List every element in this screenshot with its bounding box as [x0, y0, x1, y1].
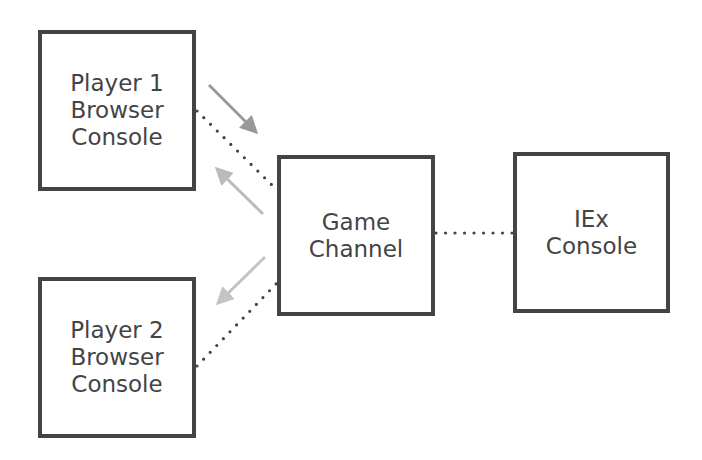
dotted-link-player2-game-channel: [197, 283, 277, 366]
player2-browser-console-node: Player 2 Browser Console: [38, 277, 196, 438]
player1-browser-console-node: Player 1 Browser Console: [38, 30, 196, 191]
iex-console-label: IEx Console: [546, 206, 637, 260]
dotted-link-player1-game-channel: [197, 111, 277, 190]
arrow-player1-to-game-channel-icon: [209, 85, 255, 131]
iex-console-node: IEx Console: [513, 152, 670, 313]
player1-browser-console-label: Player 1 Browser Console: [70, 70, 164, 151]
arrow-game-channel-to-player2-icon: [219, 257, 265, 302]
diagram-canvas: Player 1 Browser Console Game Channel IE…: [0, 0, 702, 460]
game-channel-label: Game Channel: [309, 209, 403, 263]
game-channel-node: Game Channel: [277, 155, 435, 316]
arrow-game-channel-to-player1-icon: [218, 170, 263, 214]
player2-browser-console-label: Player 2 Browser Console: [70, 317, 164, 398]
